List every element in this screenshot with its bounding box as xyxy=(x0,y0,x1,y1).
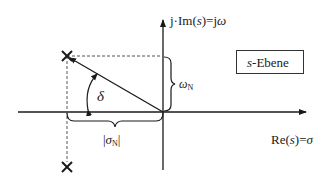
omega-n-label: ωN xyxy=(179,78,193,92)
im-prefix: j·Im( xyxy=(170,13,197,28)
sigma-abs-right: | xyxy=(118,132,121,147)
pole-vector xyxy=(70,58,163,112)
delta-angle-arc xyxy=(87,74,97,110)
im-symbol: ω xyxy=(217,13,226,28)
re-symbol: σ xyxy=(307,132,313,147)
plane-text: -Ebene xyxy=(252,55,289,70)
im-middle: )=j xyxy=(202,13,217,28)
sigma-brace xyxy=(67,113,163,127)
s-plane-diagram xyxy=(0,0,335,181)
upper-pole-marker xyxy=(62,51,72,61)
s-plane-label: s-Ebene xyxy=(247,56,289,69)
imaginary-axis-label: j·Im(s)=jω xyxy=(170,14,226,27)
lower-pole-marker xyxy=(62,162,72,172)
omega-brace xyxy=(164,57,175,111)
omega-subscript: N xyxy=(187,83,193,92)
re-middle: )= xyxy=(295,132,307,147)
sigma-n-label: |σN| xyxy=(103,133,120,148)
delta-angle-label: δ xyxy=(97,89,104,104)
re-prefix: Re( xyxy=(271,132,290,147)
real-axis-label: Re(s)=σ xyxy=(271,133,313,146)
